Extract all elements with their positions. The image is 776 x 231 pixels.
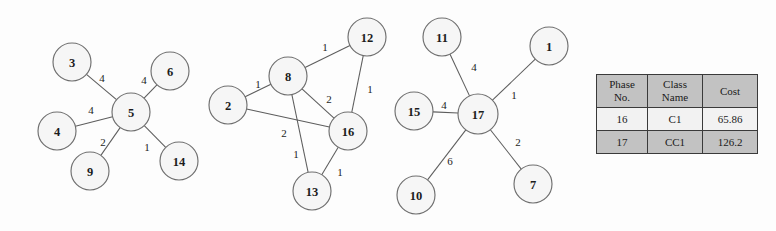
edge-weight-label: 2	[515, 136, 521, 148]
node-label: 7	[530, 178, 536, 192]
graph-edge	[144, 85, 157, 98]
nodes-layer: 3645914128216131111517107	[38, 18, 568, 214]
node-label: 13	[306, 185, 319, 199]
node-label: 11	[436, 31, 448, 45]
graph-node: 8	[269, 57, 307, 95]
graph-node: 6	[151, 52, 189, 90]
graph-node: 7	[514, 165, 552, 203]
graph-edge	[322, 147, 338, 174]
edge-weight-label: 2	[326, 93, 332, 105]
graph-edge	[450, 54, 469, 96]
graph-node: 9	[71, 152, 109, 190]
column-header-phase-no-line2: No.	[600, 91, 644, 104]
column-header-phase-no-line1: Phase	[600, 78, 644, 91]
edge-weight-label: 6	[447, 155, 453, 167]
graph-node: 3	[53, 43, 91, 81]
node-label: 16	[342, 125, 355, 139]
cell-phase-no: 17	[597, 131, 648, 154]
edge-weight-label: 4	[88, 104, 94, 116]
node-label: 5	[128, 106, 134, 120]
edge-weight-label: 4	[99, 72, 105, 84]
graph-edge	[247, 109, 330, 127]
graph-node: 12	[348, 18, 386, 56]
node-label: 9	[87, 165, 93, 179]
graph-node: 1	[530, 27, 568, 65]
cell-phase-no: 16	[597, 108, 648, 131]
edge-weight-label: 1	[255, 78, 261, 90]
cell-class-name: C1	[648, 108, 703, 131]
edge-weight-label: 1	[337, 166, 343, 178]
cell-cost: 65.86	[703, 108, 758, 131]
edge-weight-label: 4	[441, 99, 447, 111]
node-label: 4	[54, 125, 61, 139]
edge-weight-label: 1	[511, 89, 517, 101]
node-label: 3	[69, 56, 75, 70]
graph-edge	[433, 112, 458, 113]
table-body: 16C165.8617CC1126.2	[597, 108, 758, 154]
node-label: 2	[225, 99, 231, 113]
edge-weight-label: 4	[141, 74, 147, 86]
node-label: 1	[546, 40, 552, 54]
phase-cost-table: Phase No. Class Name Cost 16C165.8617CC1…	[596, 74, 758, 154]
graph-node: 15	[395, 92, 433, 130]
table-header-row: Phase No. Class Name Cost	[597, 75, 758, 108]
node-label: 8	[285, 70, 291, 84]
column-header-phase-no: Phase No.	[597, 75, 648, 108]
column-header-cost: Cost	[703, 75, 758, 108]
edge-weight-label: 1	[322, 41, 328, 53]
cell-cost: 126.2	[703, 131, 758, 154]
edge-weight-label: 1	[367, 83, 373, 95]
graph-node: 10	[397, 176, 435, 214]
column-header-class-name: Class Name	[648, 75, 703, 108]
graph-node: 13	[293, 172, 331, 210]
graph-node: 5	[112, 93, 150, 131]
graph-node: 17	[458, 94, 498, 134]
node-label: 15	[408, 105, 421, 119]
graph-node: 4	[38, 112, 76, 150]
node-label: 6	[167, 65, 173, 79]
graph-edge	[352, 56, 363, 113]
table-row: 17CC1126.2	[597, 131, 758, 154]
table-header: Phase No. Class Name Cost	[597, 75, 758, 108]
edge-weight-label: 2	[281, 127, 287, 139]
cell-class-name: CC1	[648, 131, 703, 154]
edge-weight-label: 1	[293, 148, 299, 160]
node-label: 12	[361, 31, 374, 45]
edge-weight-label: 4	[471, 61, 477, 73]
edge-weight-label: 2	[100, 136, 106, 148]
figure-canvas: 3645914128216131111517107 44421112121141…	[0, 0, 776, 231]
table-row: 16C165.86	[597, 108, 758, 131]
graph-edge	[75, 117, 112, 127]
column-header-cost-line1: Cost	[706, 85, 754, 98]
graph-node: 11	[423, 18, 461, 56]
node-label: 10	[410, 189, 423, 203]
graph-edge	[292, 95, 308, 173]
graph-node: 2	[209, 86, 247, 124]
node-label: 17	[472, 108, 485, 122]
graph-node: 14	[160, 142, 198, 180]
graph-node: 16	[329, 112, 367, 150]
node-label: 14	[173, 155, 186, 169]
column-header-class-name-line1: Class	[651, 78, 699, 91]
edge-weight-label: 1	[144, 141, 150, 153]
column-header-class-name-line2: Name	[651, 91, 699, 104]
